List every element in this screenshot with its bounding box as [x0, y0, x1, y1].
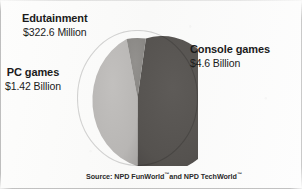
callout-edutainment-title: Edutainment	[22, 12, 88, 25]
pie-chart-figure: Edutainment $322.6 Million PC games $1.4…	[0, 0, 302, 189]
pie-svg	[77, 30, 198, 166]
callout-console-games-value: $4.6 Billion	[190, 57, 270, 69]
scan-frame-top-edge	[0, 0, 302, 1]
pie-chart-graphic	[77, 30, 198, 166]
source-note: Source: NPD FunWorld™and NPD TechWorld™	[86, 171, 242, 181]
scan-frame-bottom-edge	[0, 188, 302, 189]
scan-frame-left-edge	[0, 0, 1, 189]
trademark-icon: ™	[237, 171, 242, 177]
source-note-middle: and NPD TechWorld	[169, 172, 237, 181]
source-note-prefix: Source: NPD FunWorld	[86, 172, 164, 181]
scan-frame-right-edge	[301, 0, 302, 189]
callout-pc-games-value: $1.42 Billion	[5, 80, 61, 92]
callout-console-games-title: Console games	[190, 43, 270, 56]
callout-edutainment-value: $322.6 Million	[22, 26, 88, 38]
pie-slice-console-games	[137, 36, 198, 166]
callout-console-games: Console games $4.6 Billion	[190, 43, 270, 69]
callout-edutainment: Edutainment $322.6 Million	[22, 12, 88, 38]
callout-pc-games-title: PC games	[5, 66, 61, 79]
callout-pc-games: PC games $1.42 Billion	[5, 66, 61, 92]
